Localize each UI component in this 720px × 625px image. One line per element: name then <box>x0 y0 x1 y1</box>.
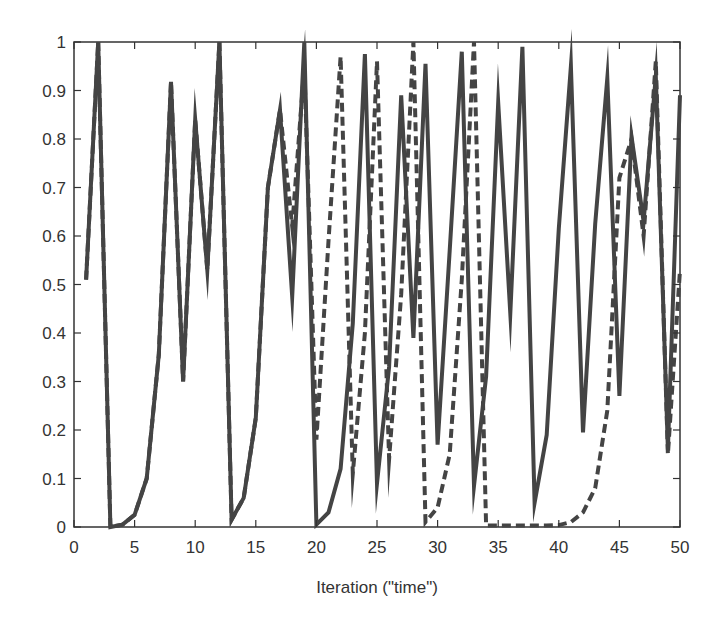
chart-canvas: 05101520253035404550 00.10.20.30.40.50.6… <box>0 0 720 625</box>
y-tick-label: 0 <box>57 518 66 537</box>
y-tick-label: 0.2 <box>42 421 66 440</box>
y-tick-label: 0.9 <box>42 82 66 101</box>
x-tick-label: 30 <box>428 538 447 557</box>
x-tick-label: 25 <box>368 538 387 557</box>
plot-area <box>74 42 680 527</box>
x-tick-label: 20 <box>307 538 326 557</box>
y-tick-label: 0.5 <box>42 276 66 295</box>
x-tick-label: 45 <box>610 538 629 557</box>
x-tick-label: 5 <box>130 538 139 557</box>
x-tick-label: 15 <box>246 538 265 557</box>
x-tick-label: 0 <box>69 538 78 557</box>
x-tick-label: 35 <box>489 538 508 557</box>
y-tick-label: 0.7 <box>42 179 66 198</box>
y-tick-label: 0.6 <box>42 227 66 246</box>
x-tick-label: 50 <box>671 538 690 557</box>
y-tick-label: 0.8 <box>42 130 66 149</box>
y-tick-label: 0.3 <box>42 373 66 392</box>
x-tick-label: 10 <box>186 538 205 557</box>
x-tick-label: 40 <box>549 538 568 557</box>
y-tick-label: 0.1 <box>42 470 66 489</box>
x-axis-title: Iteration ("time") <box>316 578 438 597</box>
y-tick-label: 0.4 <box>42 324 66 343</box>
y-tick-label: 1 <box>57 33 66 52</box>
